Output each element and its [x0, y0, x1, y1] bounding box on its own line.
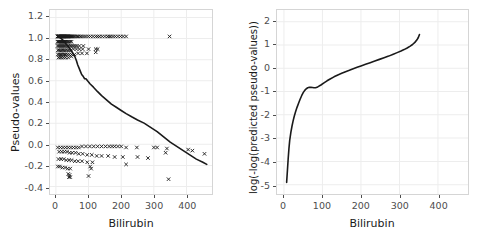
scatter-marker-x [76, 52, 79, 55]
x-axis-title-right: Bilirubin [349, 218, 394, 229]
scatter-marker-x [136, 155, 139, 158]
x-tick-mark [187, 195, 188, 198]
panel-left: -0.4-0.20.00.20.40.60.81.01.201002003004… [0, 0, 240, 239]
scatter-marker-x [164, 151, 167, 154]
y-tick-mark [273, 91, 276, 92]
scatter-marker-x [106, 154, 109, 157]
scatter-marker-x [90, 153, 93, 156]
scatter-marker-x [82, 44, 85, 47]
scatter-marker-x [104, 145, 107, 148]
scatter-marker-x [96, 47, 99, 50]
plot-area-right [276, 9, 469, 195]
plot-canvas-left [50, 10, 212, 194]
x-tick-mark [88, 195, 89, 198]
y-tick-label: -0.2 [11, 161, 43, 171]
y-tick-label: 0.8 [11, 54, 43, 64]
x-tick-label: 400 [430, 201, 448, 211]
scatter-marker-x [77, 146, 80, 149]
y-tick-mark [46, 59, 49, 60]
x-tick-label: 200 [352, 201, 370, 211]
y-tick-mark [46, 16, 49, 17]
scatter-marker-x [70, 158, 73, 161]
x-tick-mark [283, 195, 284, 198]
scatter-marker-x [191, 149, 194, 152]
scatter-marker-x [96, 145, 99, 148]
scatter-marker-x [84, 145, 87, 148]
y-axis-title-right: log(-log(predicted pseudo-values)) [249, 21, 259, 194]
scatter-marker-x [67, 56, 70, 59]
scatter-marker-x [91, 161, 94, 164]
scatter-marker-x [113, 145, 116, 148]
y-tick-mark [46, 123, 49, 124]
scatter-marker-x [135, 146, 138, 149]
x-tick-mark [322, 195, 323, 198]
x-tick-mark [154, 195, 155, 198]
x-tick-mark [55, 195, 56, 198]
scatter-marker-x [70, 151, 73, 154]
scatter-marker-x [168, 35, 171, 38]
x-axis-title-left: Bilirubin [108, 218, 153, 229]
scatter-marker-x [80, 52, 83, 55]
scatter-marker-x [76, 159, 79, 162]
y-tick-mark [273, 68, 276, 69]
scatter-marker-x [100, 154, 103, 157]
x-tick-label: 200 [112, 201, 130, 211]
plot-area-left [49, 9, 213, 195]
y-tick-mark [273, 115, 276, 116]
y-tick-mark [46, 188, 49, 189]
scatter-marker-x [81, 152, 84, 155]
y-tick-mark [46, 166, 49, 167]
scatter-marker-x [116, 145, 119, 148]
scatter-marker-x [78, 44, 81, 47]
y-tick-mark [46, 81, 49, 82]
scatter-marker-x [203, 152, 206, 155]
scatter-marker-x [155, 146, 158, 149]
scatter-marker-x [94, 51, 97, 54]
x-tick-label: 300 [145, 201, 163, 211]
scatter-marker-x [124, 146, 127, 149]
scatter-marker-x [80, 145, 83, 148]
x-tick-label: 100 [313, 201, 331, 211]
y-tick-mark [46, 38, 49, 39]
y-tick-mark [273, 21, 276, 22]
scatter-marker-x [100, 145, 103, 148]
y-tick-mark [273, 138, 276, 139]
y-tick-label: 1.2 [11, 12, 43, 22]
scatter-series [56, 35, 206, 181]
scatter-marker-x [167, 177, 170, 180]
scatter-marker-x [165, 147, 168, 150]
figure-root: -0.4-0.20.00.20.40.60.81.01.201002003004… [0, 0, 481, 239]
scatter-marker-x [73, 159, 76, 162]
scatter-marker-x [77, 152, 80, 155]
scatter-marker-x [124, 35, 127, 38]
y-tick-mark [273, 162, 276, 163]
scatter-marker-x [81, 47, 84, 50]
scatter-marker-x [146, 156, 149, 159]
y-tick-mark [46, 102, 49, 103]
y-tick-label: 1.0 [11, 33, 43, 43]
scatter-marker-x [92, 145, 95, 148]
x-tick-label: 0 [280, 201, 286, 211]
x-tick-label: 100 [79, 201, 97, 211]
scatter-marker-x [74, 151, 77, 154]
x-tick-label: 400 [178, 201, 196, 211]
x-tick-mark [121, 195, 122, 198]
x-tick-label: 0 [52, 201, 58, 211]
scatter-marker-x [113, 155, 116, 158]
x-tick-mark [400, 195, 401, 198]
x-tick-label: 300 [391, 201, 409, 211]
scatter-marker-x [80, 159, 83, 162]
plot-canvas-right [277, 10, 468, 194]
x-tick-mark [439, 195, 440, 198]
scatter-marker-x [95, 154, 98, 157]
panel-right: -5-4-3-2-10120100200300400 Bilirubin log… [240, 0, 481, 239]
y-tick-mark [273, 44, 276, 45]
y-tick-label: -0.4 [11, 183, 43, 193]
scatter-marker-x [69, 167, 72, 170]
scatter-marker-x [78, 47, 81, 50]
y-tick-mark [46, 145, 49, 146]
y-tick-mark [273, 186, 276, 187]
x-tick-mark [361, 195, 362, 198]
y-axis-title-left: Pseudo-values [10, 73, 21, 152]
